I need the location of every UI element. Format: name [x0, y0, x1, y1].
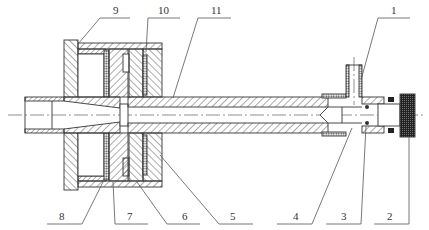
- part-2-knob: [400, 94, 415, 137]
- label-6: 6: [182, 210, 188, 222]
- label-7: 7: [127, 210, 133, 222]
- cross-section-drawing: 9 10 11 1 8 7 6 5 4 3 2: [0, 0, 429, 230]
- label-1: 1: [391, 4, 397, 16]
- label-4: 4: [293, 210, 299, 222]
- cavity-upper: [78, 54, 104, 97]
- cavity-lower: [78, 133, 104, 176]
- o-ring-upper: [365, 105, 369, 109]
- label-8: 8: [59, 210, 65, 222]
- label-5: 5: [230, 210, 236, 222]
- label-2: 2: [387, 210, 393, 222]
- part-1-side-inlet: [346, 57, 362, 105]
- valve-disc: [120, 104, 128, 126]
- label-3: 3: [341, 210, 347, 222]
- label-9: 9: [113, 4, 119, 16]
- label-11: 11: [211, 4, 222, 16]
- label-10: 10: [158, 4, 170, 16]
- o-ring-lower: [365, 121, 369, 125]
